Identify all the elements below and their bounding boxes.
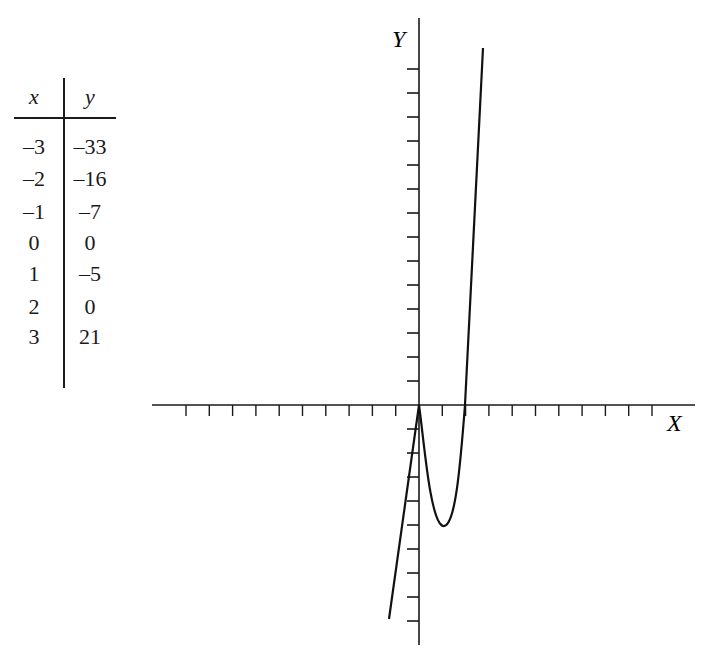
function-curve xyxy=(389,48,483,619)
x-axis-label: X xyxy=(666,410,683,436)
graph: Y X xyxy=(0,0,712,663)
y-axis-label: Y xyxy=(392,26,408,52)
y-axis-ticks xyxy=(407,69,419,621)
